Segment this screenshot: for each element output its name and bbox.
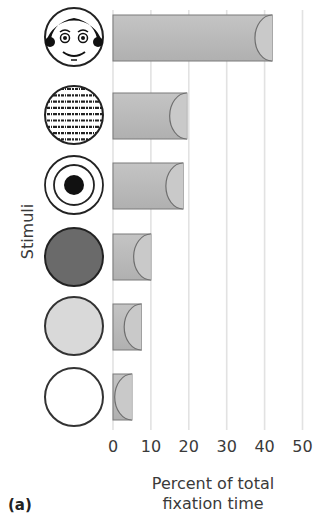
bars — [113, 15, 272, 420]
x-axis-label-line2: fixation time — [128, 494, 298, 514]
bullseye-stimulus-icon — [45, 156, 103, 214]
x-axis-label: Percent of total fixation time — [128, 474, 298, 514]
x-tick-label: 10 — [141, 437, 161, 456]
bar-face — [113, 15, 272, 61]
newsprint-stimulus-icon — [44, 86, 104, 144]
bar-dark-solid-circle — [113, 234, 151, 280]
dark-circle-stimulus-icon — [45, 228, 103, 286]
face-stimulus-icon — [45, 8, 103, 66]
gridlines — [113, 10, 303, 430]
light-circle-stimulus-icon — [45, 297, 103, 355]
panel-label: (a) — [8, 496, 32, 514]
bar-bullseye — [113, 163, 183, 209]
x-tick-label: 20 — [179, 437, 199, 456]
x-tick-label: 40 — [254, 437, 274, 456]
white-circle-stimulus-icon — [45, 368, 103, 426]
y-axis-label: Stimuli — [18, 197, 37, 267]
bar-light-solid-circle — [113, 304, 141, 350]
bar-white-circle — [113, 374, 132, 420]
bar-chart: Stimuli 01020304050 Percent of total fix… — [0, 0, 313, 518]
bar-newsprint — [113, 93, 187, 139]
x-axis-label-line1: Percent of total — [128, 474, 298, 494]
x-tick-label: 30 — [217, 437, 237, 456]
x-tick-label: 0 — [108, 437, 118, 456]
x-tick-label: 50 — [292, 437, 312, 456]
